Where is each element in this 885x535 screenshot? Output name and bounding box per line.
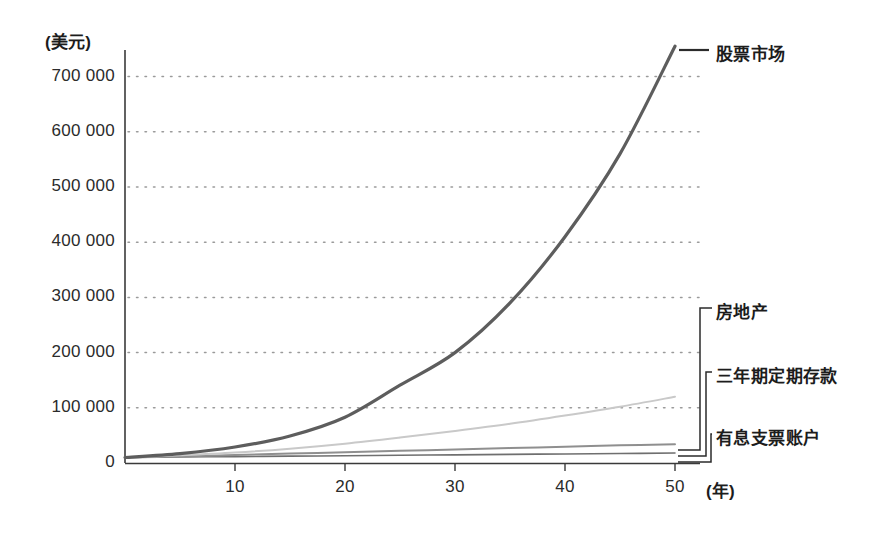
- x-tick-label: 50: [645, 477, 705, 497]
- y-tick-label: 300 000: [51, 286, 115, 306]
- chart-plot-area: [0, 0, 885, 535]
- x-tick-label: 20: [315, 477, 375, 497]
- series-label: 房地产: [716, 298, 768, 323]
- series-label: 有息支票账户: [716, 424, 820, 449]
- series-lines-group: [125, 46, 675, 457]
- gridlines-group: [128, 77, 700, 408]
- y-tick-label: 700 000: [51, 66, 115, 86]
- x-tick-label: 30: [425, 477, 485, 497]
- y-tick-label: 100 000: [51, 397, 115, 417]
- y-tick-label: 400 000: [51, 231, 115, 251]
- series-line: [125, 46, 675, 457]
- leader-bracket-term-deposit: [678, 372, 712, 456]
- y-tick-label: 600 000: [51, 121, 115, 141]
- y-axis-unit-label: (美元): [45, 28, 91, 53]
- chart-container: (美元) (年) 0100 000200 000300 000400 00050…: [0, 0, 885, 535]
- series-label: 股票市场: [716, 40, 786, 65]
- leader-bracket-checking-account: [678, 434, 712, 462]
- series-label: 三年期定期存款: [716, 362, 838, 387]
- y-tick-label: 200 000: [51, 342, 115, 362]
- y-tick-label: 0: [105, 452, 115, 472]
- leader-bracket-real-estate: [678, 308, 712, 450]
- x-tick-label: 40: [535, 477, 595, 497]
- axes-group: [125, 50, 700, 464]
- leader-lines-group: [678, 50, 712, 462]
- x-tick-label: 10: [205, 477, 265, 497]
- series-line: [125, 397, 675, 458]
- x-axis-unit-label: (年): [706, 477, 735, 502]
- y-tick-label: 500 000: [51, 176, 115, 196]
